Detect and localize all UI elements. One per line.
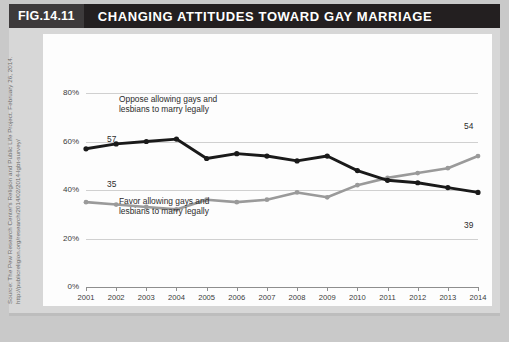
data-point (415, 171, 420, 176)
figure-container: FIG.14.11 CHANGING ATTITUDES TOWARD GAY … (0, 0, 509, 342)
data-point (415, 180, 420, 185)
series-oppose (83, 136, 480, 195)
data-point (475, 190, 480, 195)
chart-series (43, 34, 492, 306)
annotation-oppose-line-1: Oppose allowing gays and (119, 94, 217, 104)
data-point (264, 153, 269, 158)
data-point (325, 195, 330, 200)
annotation-favor: Favor allowing gays and lesbians to marr… (119, 196, 209, 217)
data-point (325, 153, 330, 158)
figure-number-box: FIG.14.11 (9, 4, 84, 28)
figure-body: Source: The Pew Research Center's Religi… (9, 28, 500, 313)
annotation-favor-line-1: Favor allowing gays and (119, 196, 209, 206)
data-point (445, 166, 450, 171)
annotation-favor-line-2: lesbians to marry legally (119, 206, 209, 216)
source-line-2: http://publicreligion.org/research/2014/… (14, 36, 22, 304)
data-point (83, 146, 88, 151)
source-citation: Source: The Pew Research Center's Religi… (6, 36, 26, 304)
data-label-favor-end: 54 (464, 121, 473, 131)
data-point (84, 200, 89, 205)
data-point (234, 151, 239, 156)
data-label-favor-start: 35 (107, 179, 116, 189)
data-point (144, 139, 149, 144)
annotation-oppose: Oppose allowing gays and lesbians to mar… (119, 94, 217, 115)
data-point (265, 197, 270, 202)
data-point (476, 154, 481, 159)
data-point (385, 178, 390, 183)
data-point (204, 156, 209, 161)
data-point (114, 202, 119, 207)
data-point (174, 136, 179, 141)
data-label-oppose-start: 57 (107, 134, 116, 144)
figure-title: CHANGING ATTITUDES TOWARD GAY MARRIAGE (84, 4, 433, 28)
figure-body-inner: Source: The Pew Research Center's Religi… (9, 28, 500, 313)
data-point (355, 168, 360, 173)
data-point (445, 185, 450, 190)
data-point (355, 183, 360, 188)
figure-header: FIG.14.11 CHANGING ATTITUDES TOWARD GAY … (9, 4, 500, 28)
data-point (295, 190, 300, 195)
figure-number: FIG.14.11 (18, 9, 75, 23)
data-point (294, 158, 299, 163)
source-line-1: Source: The Pew Research Center's Religi… (6, 57, 13, 305)
data-label-oppose-end: 39 (464, 220, 473, 230)
annotation-oppose-line-2: lesbians to marry legally (119, 104, 209, 114)
panel-shadow (9, 313, 500, 316)
chart-panel: 0%20%40%60%80% 2001200220032004200520062… (43, 34, 492, 306)
data-point (234, 200, 239, 205)
